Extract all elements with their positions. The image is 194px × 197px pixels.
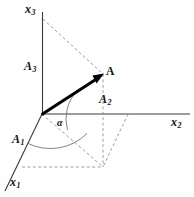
angle-arc-a1 <box>27 134 87 149</box>
dash-a2-to-plane-corner <box>103 114 128 167</box>
dash-origin-to-plane-corner <box>42 114 103 167</box>
figure-canvas: x3 x2 x1 A3 A2 A1 A α <box>0 0 194 197</box>
vector-diagram-svg <box>0 0 194 197</box>
axis-label-x1: x1 <box>10 176 20 190</box>
component-label-a1: A1 <box>12 133 24 147</box>
component-label-a2: A2 <box>99 93 111 107</box>
vector-label-a: A <box>106 66 114 78</box>
axis-label-x3: x3 <box>25 3 35 17</box>
component-label-a3: A3 <box>24 60 36 74</box>
angle-label-alpha: α <box>57 118 63 128</box>
axis-label-x2: x2 <box>171 116 181 130</box>
vector-a-shaft <box>43 78 99 114</box>
dash-a3-to-a <box>43 19 103 74</box>
